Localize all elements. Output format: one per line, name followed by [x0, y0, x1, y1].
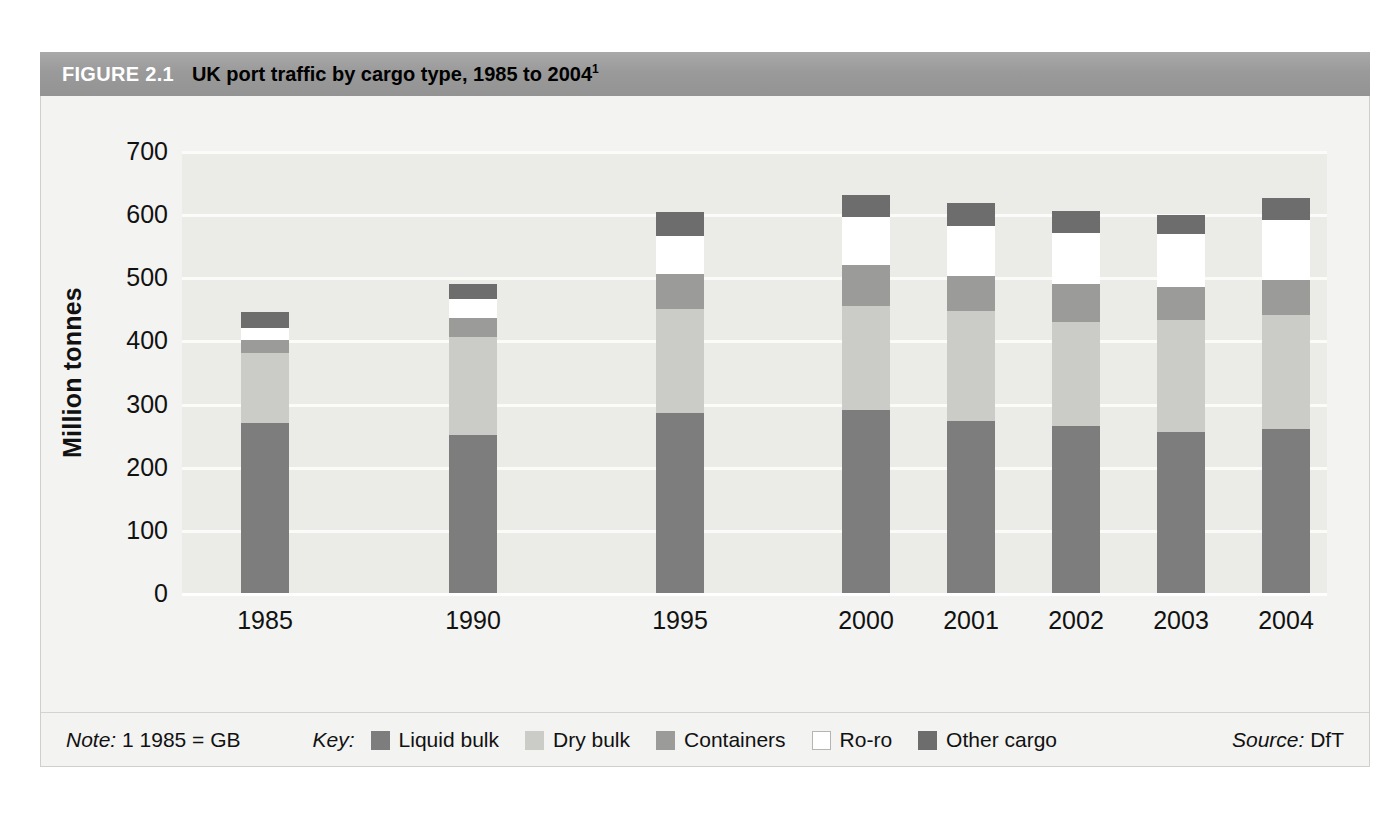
y-tick-label: 300: [48, 389, 168, 418]
bar-1990[interactable]: [449, 284, 497, 593]
legend-swatch-icon: [918, 731, 937, 750]
legend-item-label: Liquid bulk: [399, 728, 499, 752]
bar-segment-ro-ro-2002: [1052, 233, 1100, 284]
bar-segment-liquid-bulk-2002: [1052, 426, 1100, 593]
bar-segment-containers-1990: [449, 318, 497, 337]
figure-title-footnote-marker: 1: [592, 62, 599, 76]
bar-segment-containers-2002: [1052, 284, 1100, 322]
bar-segment-liquid-bulk-1985: [241, 423, 289, 593]
note-text: 1 1985 = GB: [122, 728, 241, 751]
bar-segment-liquid-bulk-2001: [947, 421, 995, 593]
bar-segment-dry-bulk-2002: [1052, 322, 1100, 426]
figure-note: Note: 1 1985 = GB: [66, 728, 241, 752]
figure-title: UK port traffic by cargo type, 1985 to 2…: [192, 62, 599, 86]
bar-segment-other-cargo-1990: [449, 284, 497, 300]
legend-item-label: Containers: [684, 728, 786, 752]
bar-segment-liquid-bulk-1995: [656, 413, 704, 593]
bar-segment-other-cargo-2000: [842, 195, 890, 217]
legend-swatch-icon: [525, 731, 544, 750]
legend-label: Key:: [313, 728, 355, 752]
bar-2001[interactable]: [947, 203, 995, 593]
bar-segment-liquid-bulk-1990: [449, 435, 497, 593]
bar-segment-dry-bulk-2001: [947, 311, 995, 422]
bar-segment-other-cargo-2003: [1157, 215, 1205, 234]
bar-segment-containers-2000: [842, 265, 890, 306]
y-axis-title: Million tonnes: [58, 213, 87, 533]
y-tick-label: 100: [48, 515, 168, 544]
bar-2002[interactable]: [1052, 211, 1100, 593]
x-tick-label-1990: 1990: [393, 606, 553, 635]
bar-segment-dry-bulk-2000: [842, 306, 890, 410]
bar-segment-ro-ro-1985: [241, 328, 289, 341]
bar-1995[interactable]: [656, 212, 704, 593]
bar-segment-containers-2003: [1157, 287, 1205, 320]
legend-swatch-icon: [812, 731, 831, 750]
bar-segment-containers-1985: [241, 340, 289, 353]
legend-item-containers[interactable]: Containers: [656, 728, 786, 752]
bar-2004[interactable]: [1262, 198, 1310, 593]
bar-segment-ro-ro-2000: [842, 217, 890, 264]
figure-number: FIGURE 2.1: [62, 63, 174, 86]
figure-title-text: UK port traffic by cargo type, 1985 to 2…: [192, 63, 592, 85]
chart-bars-layer: [182, 151, 1327, 593]
y-tick-label: 200: [48, 452, 168, 481]
bar-segment-liquid-bulk-2000: [842, 410, 890, 593]
x-axis-baseline: [182, 593, 1327, 596]
bar-segment-other-cargo-2002: [1052, 211, 1100, 233]
x-tick-label-2004: 2004: [1206, 606, 1366, 635]
y-tick-label: 400: [48, 326, 168, 355]
y-tick-label: 500: [48, 263, 168, 292]
x-tick-label-1985: 1985: [185, 606, 345, 635]
note-prefix: Note:: [66, 728, 116, 751]
bar-segment-liquid-bulk-2004: [1262, 429, 1310, 593]
bar-segment-dry-bulk-2004: [1262, 315, 1310, 429]
bar-segment-other-cargo-1985: [241, 312, 289, 328]
bar-segment-ro-ro-2004: [1262, 220, 1310, 280]
legend-item-label: Other cargo: [946, 728, 1057, 752]
figure-page: FIGURE 2.1 UK port traffic by cargo type…: [0, 0, 1400, 814]
legend-item-label: Dry bulk: [553, 728, 630, 752]
legend-item-dry-bulk[interactable]: Dry bulk: [525, 728, 630, 752]
bar-segment-dry-bulk-1995: [656, 309, 704, 413]
bar-2003[interactable]: [1157, 215, 1205, 593]
bar-segment-other-cargo-2004: [1262, 198, 1310, 220]
legend-item-ro-ro[interactable]: Ro-ro: [812, 728, 893, 752]
bar-segment-other-cargo-1995: [656, 212, 704, 236]
bar-segment-ro-ro-2003: [1157, 234, 1205, 288]
legend-item-liquid-bulk[interactable]: Liquid bulk: [371, 728, 499, 752]
y-tick-label: 0: [48, 579, 168, 608]
legend-items: Liquid bulkDry bulkContainersRo-roOther …: [371, 728, 1083, 752]
bar-segment-other-cargo-2001: [947, 203, 995, 225]
bar-segment-dry-bulk-2003: [1157, 320, 1205, 432]
bar-segment-ro-ro-1995: [656, 236, 704, 274]
y-tick-label: 700: [48, 137, 168, 166]
legend-label-text: Key:: [313, 728, 355, 751]
chart-plot-wrapper: Million tonnes 0100200300400500600700 19…: [40, 96, 1370, 716]
legend-swatch-icon: [656, 731, 675, 750]
bar-2000[interactable]: [842, 195, 890, 593]
x-tick-label-1995: 1995: [600, 606, 760, 635]
legend-item-other-cargo[interactable]: Other cargo: [918, 728, 1057, 752]
legend-item-label: Ro-ro: [840, 728, 893, 752]
bar-segment-ro-ro-2001: [947, 226, 995, 277]
legend-swatch-icon: [371, 731, 390, 750]
source-text: DfT: [1310, 728, 1344, 751]
bar-segment-liquid-bulk-2003: [1157, 432, 1205, 593]
bar-segment-containers-1995: [656, 274, 704, 309]
figure-footer: Note: 1 1985 = GB Key: Liquid bulkDry bu…: [40, 713, 1370, 767]
source-prefix: Source:: [1232, 728, 1304, 751]
figure-header-band: FIGURE 2.1 UK port traffic by cargo type…: [40, 52, 1370, 96]
chart-legend: Key: Liquid bulkDry bulkContainersRo-roO…: [313, 728, 1083, 752]
y-tick-label: 600: [48, 200, 168, 229]
bar-1985[interactable]: [241, 312, 289, 593]
bar-segment-ro-ro-1990: [449, 299, 497, 318]
bar-segment-dry-bulk-1985: [241, 353, 289, 422]
bar-segment-containers-2004: [1262, 280, 1310, 315]
bar-segment-dry-bulk-1990: [449, 337, 497, 435]
figure-source: Source: DfT: [1232, 728, 1344, 752]
bar-segment-containers-2001: [947, 276, 995, 311]
